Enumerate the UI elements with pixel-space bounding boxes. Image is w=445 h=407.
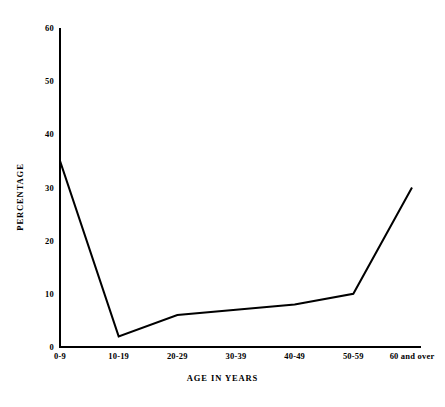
x-axis-tick-label: 50-59: [343, 352, 364, 361]
y-axis-tick-20: 20: [34, 237, 54, 246]
x-axis-tick-60-and-over: 60 and over: [390, 352, 435, 364]
y-axis-tick-60: 60: [34, 24, 54, 33]
y-axis-tick-label: 30: [34, 184, 54, 193]
data-series-line: [60, 161, 412, 336]
x-axis-tick-50-59: 50-59: [343, 352, 364, 364]
y-axis-tick-label: 60: [34, 24, 54, 33]
y-axis-tick-label: 0: [34, 343, 54, 352]
x-axis-line: [59, 346, 421, 348]
y-axis-title-text: PERCENTAGE: [16, 163, 25, 230]
x-axis-tick-30-39: 30-39: [226, 352, 247, 364]
y-axis-tick-label: 50: [34, 77, 54, 86]
y-axis-tick-40: 40: [34, 130, 54, 139]
y-axis-tick-30: 30: [34, 184, 54, 193]
y-axis-tick-label: 10: [34, 290, 54, 299]
y-axis-line: [59, 28, 61, 348]
x-axis-tick-label: 40-49: [284, 352, 305, 361]
x-axis-tick-label: 60 and over: [390, 352, 435, 361]
x-axis-tick-40-49: 40-49: [284, 352, 305, 364]
line-chart: 0102030405060 0-910-1920-2930-3940-4950-…: [0, 0, 445, 407]
x-axis-tick-20-29: 20-29: [167, 352, 188, 364]
x-axis-tick-label: 20-29: [167, 352, 188, 361]
x-axis-tick-label: 10-19: [108, 352, 129, 361]
y-axis-tick-50: 50: [34, 77, 54, 86]
x-axis-tick-0-9: 0-9: [54, 352, 66, 364]
y-axis-tick-label: 40: [34, 130, 54, 139]
y-axis-tick-10: 10: [34, 290, 54, 299]
y-axis-title: PERCENTAGE: [13, 152, 27, 242]
x-axis-tick-label: 30-39: [226, 352, 247, 361]
x-axis-tick-10-19: 10-19: [108, 352, 129, 364]
y-axis-tick-0: 0: [34, 343, 54, 352]
y-axis-tick-label: 20: [34, 237, 54, 246]
x-axis-tick-label: 0-9: [54, 352, 66, 361]
x-axis-title: AGE IN YEARS: [0, 374, 445, 383]
